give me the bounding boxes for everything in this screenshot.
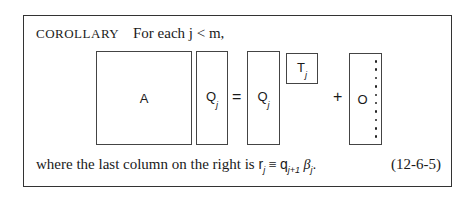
equation-number: (12-6-5) xyxy=(391,156,441,173)
matrix-a-label: A xyxy=(140,91,149,106)
qj-left-label: Qj xyxy=(206,89,218,107)
matrix-tj: Tj xyxy=(286,53,318,84)
zero-label: O xyxy=(357,92,367,107)
plus-sign: + xyxy=(333,88,342,106)
matrix-residual: O xyxy=(349,53,382,145)
qj-right-label: Qj xyxy=(257,89,269,107)
corollary-statement: For each j < m, xyxy=(133,25,224,41)
matrix-qj-right: Qj xyxy=(247,51,280,145)
equals-sign: = xyxy=(232,88,241,106)
footer-text: where the last column on the right is rj… xyxy=(36,156,316,175)
matrix-qj-left: Qj xyxy=(196,51,228,145)
tj-label: Tj xyxy=(297,60,307,78)
matrix-a: A xyxy=(96,51,192,145)
corollary-heading: COROLLARY For each j < m, xyxy=(36,25,224,42)
dotted-last-column xyxy=(375,60,378,138)
residual-definition: rj ≡ qj+1 βj. xyxy=(258,156,316,172)
corollary-label: COROLLARY xyxy=(36,26,119,41)
